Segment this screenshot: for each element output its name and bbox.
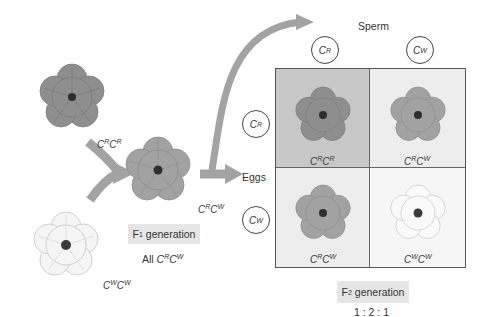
sperm-label: Sperm <box>358 21 389 32</box>
punnett-cell-ww: CWCW <box>370 168 465 267</box>
flower-rw-top-icon <box>378 75 458 155</box>
parent-white-genotype: CWCW <box>103 279 131 291</box>
f1-summary: All CRCW <box>142 253 183 265</box>
flower-f1-icon <box>113 125 203 215</box>
sperm-allele-r: CR <box>311 36 339 64</box>
flower-rr-icon <box>283 75 363 155</box>
flower-ww-icon <box>378 173 458 253</box>
cell-ww-genotype: CWCW <box>404 253 432 265</box>
flower-parent-white-icon <box>21 200 111 290</box>
sperm-allele-w: CW <box>406 36 434 64</box>
eggs-label: Eggs <box>242 172 266 183</box>
flower-rw-bottom-icon <box>283 173 363 253</box>
f2-ratio: 1 : 2 : 1 <box>354 307 389 317</box>
cell-rw-top-genotype: CRCW <box>404 155 430 167</box>
f2-generation-label: F2 generation <box>337 281 409 303</box>
egg-allele-r: CR <box>242 110 270 138</box>
f1-genotype: CRCW <box>198 203 224 215</box>
f1-generation-label: F1 generation <box>128 224 200 244</box>
punnett-cell-rr: CRCR <box>276 69 370 168</box>
punnett-cell-rw-top: CRCW <box>370 69 465 168</box>
egg-allele-w: CW <box>242 206 270 234</box>
punnett-square: CRCR CRCW CRCW CWCW <box>275 68 466 268</box>
flower-parent-red-icon <box>27 52 117 142</box>
punnett-cell-rw-bottom: CRCW <box>276 168 370 267</box>
cell-rr-genotype: CRCR <box>310 155 335 167</box>
cell-rw-bottom-genotype: CRCW <box>310 253 336 265</box>
